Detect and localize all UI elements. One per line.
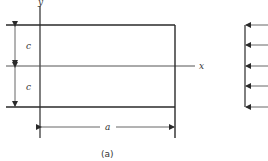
load-arrows <box>246 25 268 107</box>
y-axis-label: y <box>37 0 44 7</box>
dimension-c-upper-label: c <box>26 41 31 51</box>
x-axis-label: x <box>199 61 204 71</box>
dimension-a-label: a <box>105 122 110 132</box>
figure-caption: (a) <box>101 149 114 159</box>
dimension-c-lower-label: c <box>26 82 31 92</box>
plate-diagram: y x c c a (a) <box>0 0 268 161</box>
